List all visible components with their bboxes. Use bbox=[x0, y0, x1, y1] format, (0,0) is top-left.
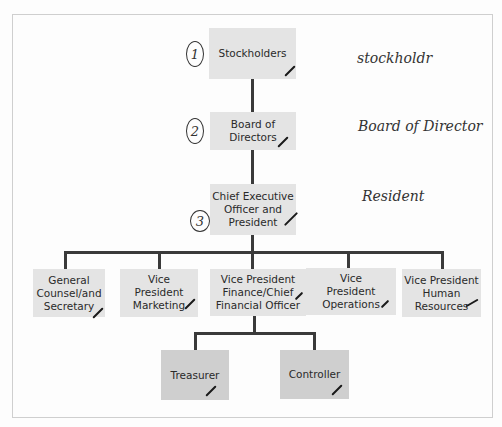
connector bbox=[251, 79, 254, 112]
circled-number-3: 3 bbox=[190, 210, 210, 232]
node-board: Board of Directors bbox=[210, 112, 296, 150]
connector bbox=[347, 251, 350, 269]
circled-number-2: 2 bbox=[186, 118, 204, 144]
circled-number-1: 1 bbox=[186, 41, 204, 67]
node-stockholders: Stockholders bbox=[209, 28, 296, 79]
handwritten-label: Board of Director bbox=[358, 118, 483, 134]
node-vp-finance: Vice President Finance/Chief Financial O… bbox=[210, 269, 306, 316]
node-label: Board of Directors bbox=[228, 118, 278, 144]
connector bbox=[441, 251, 444, 269]
connector bbox=[64, 251, 67, 269]
node-label: General Counsel/and Secretary bbox=[35, 274, 103, 313]
handwritten-label: stockholdr bbox=[357, 50, 432, 66]
node-treasurer: Treasurer bbox=[161, 350, 229, 400]
node-label: Stockholders bbox=[219, 47, 287, 60]
connector bbox=[251, 150, 254, 184]
handwritten-label: Resident bbox=[362, 188, 424, 204]
node-label: Vice President Finance/Chief Financial O… bbox=[212, 273, 304, 312]
node-label: Treasurer bbox=[171, 369, 220, 382]
node-general-counsel: General Counsel/and Secretary bbox=[33, 269, 105, 317]
node-label: Vice President Operations bbox=[314, 272, 388, 311]
connector bbox=[194, 332, 197, 350]
connector bbox=[64, 251, 444, 254]
node-controller: Controller bbox=[280, 350, 349, 399]
connector bbox=[194, 332, 316, 335]
connector bbox=[313, 332, 316, 350]
node-vp-hr: Vice President Human Resources bbox=[402, 269, 481, 317]
node-ceo: Chief Executive Officer and President bbox=[210, 184, 296, 235]
node-label: Vice President Human Resources bbox=[404, 274, 479, 313]
connector bbox=[253, 316, 256, 333]
node-vp-marketing: Vice President Marketing bbox=[120, 269, 198, 317]
node-label: Chief Executive Officer and President bbox=[212, 190, 294, 229]
node-label: Controller bbox=[289, 368, 341, 381]
connector bbox=[158, 251, 161, 269]
node-vp-operations: Vice President Operations bbox=[306, 268, 396, 315]
